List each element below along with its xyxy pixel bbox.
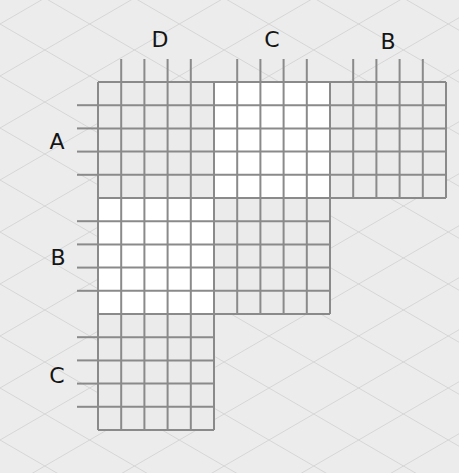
block-b-c bbox=[214, 198, 330, 314]
column-label-b: B bbox=[380, 31, 395, 53]
block-a-d bbox=[98, 82, 214, 198]
block-c-d bbox=[98, 314, 214, 430]
row-label-b: B bbox=[50, 247, 65, 269]
block-b-d bbox=[98, 198, 214, 314]
block-grid-diagram bbox=[0, 0, 459, 473]
row-label-c: C bbox=[49, 365, 64, 387]
block-a-c bbox=[214, 82, 330, 198]
column-label-c: C bbox=[264, 29, 279, 51]
row-label-a: A bbox=[49, 131, 64, 153]
block-a-b bbox=[330, 82, 446, 198]
column-label-d: D bbox=[152, 29, 169, 51]
